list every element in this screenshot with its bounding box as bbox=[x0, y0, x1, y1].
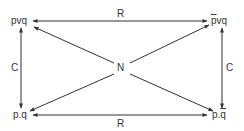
node-top-right: pvq bbox=[211, 16, 227, 26]
node-bottom-right: p.q bbox=[212, 110, 226, 120]
edge-label-bottom-text: R bbox=[117, 118, 124, 129]
node-top-right-rest: vq bbox=[217, 15, 228, 26]
edge-n-top-left bbox=[34, 27, 114, 63]
edge-label-left: C bbox=[11, 63, 18, 73]
edge-n-bottom-right bbox=[130, 74, 213, 111]
node-center: N bbox=[117, 63, 124, 73]
logic-square-diagram: pvq pvq p.q p.q N R R C C bbox=[0, 0, 244, 131]
edge-label-top-text: R bbox=[117, 8, 124, 19]
node-center-label: N bbox=[117, 62, 124, 73]
node-bottom-left: p.q bbox=[13, 110, 27, 120]
node-bottom-left-label: p.q bbox=[13, 109, 27, 120]
edge-label-right-text: C bbox=[226, 62, 233, 73]
edge-label-left-text: C bbox=[11, 62, 18, 73]
edge-label-bottom: R bbox=[117, 119, 124, 129]
edge-n-top-right bbox=[130, 25, 209, 63]
node-bottom-right-negated-q: q bbox=[220, 109, 226, 120]
edge-label-top: R bbox=[117, 9, 124, 19]
node-top-left-label: pvq bbox=[11, 15, 27, 26]
node-top-left: pvq bbox=[11, 16, 27, 26]
edge-n-bottom-left bbox=[30, 74, 114, 111]
edge-label-right: C bbox=[226, 63, 233, 73]
